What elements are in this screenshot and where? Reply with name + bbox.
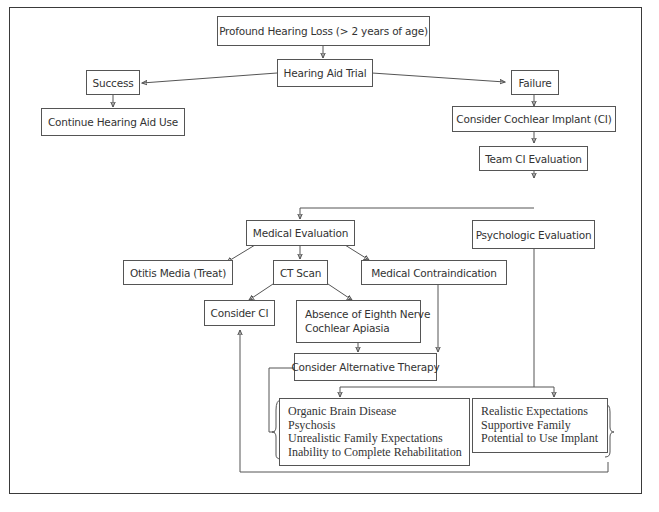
node-profound-hearing-loss: Profound Hearing Loss (> 2 years of age) — [217, 16, 430, 46]
negative-factor-item: Unrealistic Family Expectations — [288, 432, 443, 446]
node-consider-alternative-therapy: Consider Alternative Therapy — [294, 353, 437, 381]
positive-factor-item: Realistic Expectations — [481, 405, 588, 419]
node-consider-ci: Consider CI — [204, 300, 275, 326]
negative-factor-item: Inability to Complete Rehabilitation — [288, 446, 462, 460]
node-hearing-aid-trial: Hearing Aid Trial — [277, 59, 373, 87]
node-absence-eighth-nerve: Absence of Eighth Nerve Cochlear Apiasia — [296, 300, 421, 343]
negative-factor-item: Psychosis — [288, 419, 335, 433]
node-psychologic-evaluation: Psychologic Evaluation — [472, 220, 595, 249]
flowchart-canvas: Profound Hearing Loss (> 2 years of age)… — [0, 0, 659, 512]
node-team-ci-evaluation: Team CI Evaluation — [479, 146, 588, 171]
node-ct-scan: CT Scan — [273, 260, 328, 285]
positive-factor-item: Supportive Family — [481, 419, 571, 433]
node-consider-cochlear-implant: Consider Cochlear Implant (CI) — [452, 106, 616, 132]
node-failure: Failure — [511, 70, 559, 95]
node-success: Success — [86, 70, 140, 95]
node-negative-factors: Organic Brain Disease Psychosis Unrealis… — [279, 398, 470, 466]
absence-line-2: Cochlear Apiasia — [305, 322, 389, 336]
absence-line-1: Absence of Eighth Nerve — [305, 308, 430, 322]
negative-factor-item: Organic Brain Disease — [288, 405, 396, 419]
node-continue-hearing-aid-use: Continue Hearing Aid Use — [41, 108, 185, 136]
node-otitis-media: Otitis Media (Treat) — [123, 260, 233, 285]
node-medical-contraindication: Medical Contraindication — [361, 260, 507, 285]
node-positive-factors: Realistic Expectations Supportive Family… — [472, 398, 608, 453]
positive-factor-item: Potential to Use Implant — [481, 432, 598, 446]
node-medical-evaluation: Medical Evaluation — [246, 220, 355, 246]
